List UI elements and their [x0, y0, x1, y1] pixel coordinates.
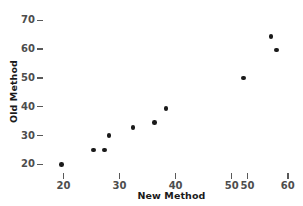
data-point [59, 162, 64, 167]
data-point [269, 34, 274, 39]
data-point [131, 125, 136, 130]
data-point [102, 148, 107, 153]
data-point [164, 106, 169, 111]
data-points-layer [0, 0, 303, 206]
data-point [91, 148, 96, 153]
data-point [274, 48, 279, 53]
data-point [152, 120, 157, 125]
y-axis-title: Old Method [8, 42, 19, 142]
scatter-plot: 203040506070 203040505060 New Method Old… [0, 0, 303, 206]
data-point [241, 76, 246, 81]
data-point [107, 133, 112, 138]
x-axis-title: New Method [43, 190, 300, 201]
